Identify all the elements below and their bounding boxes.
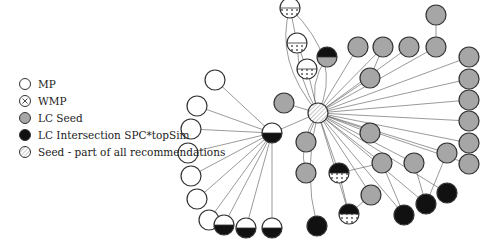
legend: MP WMP LC Seed LC Intersection SPC*topSi…: [18, 75, 225, 160]
mp-node-icon: [18, 77, 32, 91]
lc-intersection-node: [307, 216, 327, 236]
legend-label: Seed - part of all recommendations: [38, 146, 225, 158]
edge: [318, 79, 469, 113]
lc-seed-node: [296, 132, 316, 152]
mp-lc-intersection-node: [214, 215, 234, 235]
seed-hub-node: [308, 103, 328, 123]
lc-seed-node: [426, 5, 446, 25]
lc-intersection-node-icon: [18, 128, 32, 142]
edge: [246, 133, 272, 228]
lc-seed-node: [372, 153, 392, 173]
lc-seed-node: [459, 111, 479, 131]
edge: [318, 113, 349, 214]
edge: [318, 100, 469, 113]
lc-intersection-wmp-node: [339, 204, 359, 224]
lc-seed-node-icon: [18, 111, 32, 125]
legend-item-wmp: WMP: [18, 92, 225, 109]
mp-wmp-node: [297, 59, 317, 79]
lc-intersection-node: [394, 205, 414, 225]
mp-lc-intersection-node: [236, 218, 256, 238]
lc-seed-node: [459, 90, 479, 110]
legend-label: WMP: [38, 95, 67, 107]
legend-item-lcint: LC Intersection SPC*topSim: [18, 126, 225, 143]
legend-item-seed: Seed - part of all recommendations: [18, 143, 225, 160]
lc-seed-node: [459, 69, 479, 89]
lc-seed-node: [361, 185, 381, 205]
legend-item-lcseed: LC Seed: [18, 109, 225, 126]
lc-intersection-node: [416, 194, 436, 214]
lc-intersection-wmp-node: [329, 163, 349, 183]
edge: [318, 57, 469, 113]
seed-node-icon: [18, 145, 32, 159]
lc-seed-node: [373, 37, 393, 57]
mp-lc-intersection-node: [262, 123, 282, 143]
lc-seed-node: [459, 133, 479, 153]
lc-seed-node: [348, 37, 368, 57]
wmp-node-icon: [18, 94, 32, 108]
legend-label: LC Seed: [38, 112, 83, 124]
lc-seed-node: [360, 123, 380, 143]
mp-node: [181, 166, 201, 186]
lc-intersection-seed-node: [317, 47, 337, 67]
lc-seed-node: [404, 153, 424, 173]
legend-label: MP: [38, 78, 56, 90]
edge: [224, 133, 272, 225]
lc-seed-node: [274, 93, 294, 113]
lc-intersection-node: [437, 183, 457, 203]
mp-lc-intersection-node: [262, 218, 282, 238]
mp-wmp-node: [287, 33, 307, 53]
lc-seed-node: [459, 47, 479, 67]
lc-seed-node: [426, 37, 446, 57]
legend-label: LC Intersection SPC*topSim: [38, 129, 190, 141]
lc-seed-node: [399, 37, 419, 57]
mp-wmp-node: [280, 0, 300, 18]
lc-seed-node: [437, 143, 457, 163]
lc-seed-node: [459, 154, 479, 174]
lc-seed-node: [360, 68, 380, 88]
legend-item-mp: MP: [18, 75, 225, 92]
lc-seed-node: [296, 163, 316, 183]
mp-node: [187, 189, 207, 209]
